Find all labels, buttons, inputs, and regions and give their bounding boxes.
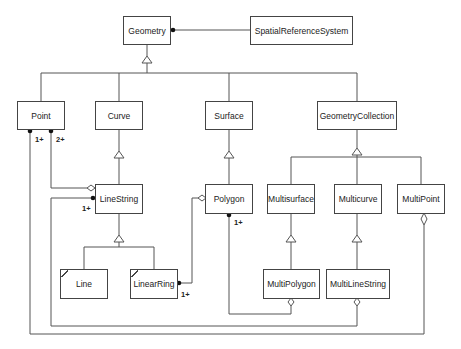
class-linear-ring[interactable]: LinearRing — [130, 269, 178, 299]
class-multilinestring[interactable]: MultiLineString — [326, 269, 390, 299]
multiplicity-linestring-multilinestring: 1+ — [82, 204, 91, 213]
class-point[interactable]: Point — [17, 101, 65, 130]
class-label: GeometryCollection — [320, 111, 395, 121]
class-label: MultiLineString — [330, 279, 386, 289]
class-linestring[interactable]: LineString — [95, 184, 143, 214]
multiplicity-linearring-polygon: 1+ — [181, 290, 190, 299]
multiplicity-point-linestring: 2+ — [56, 135, 65, 144]
class-multipoint[interactable]: MultiPoint — [397, 184, 445, 214]
class-label: Line — [76, 279, 92, 289]
class-label: MultiPolygon — [267, 279, 316, 289]
class-surface[interactable]: Surface — [205, 101, 253, 130]
class-line[interactable]: Line — [60, 269, 108, 299]
class-label: Geometry — [128, 26, 165, 36]
multiplicity-point-multipoint: 1+ — [35, 135, 44, 144]
class-multicurve[interactable]: Multicurve — [334, 184, 382, 214]
class-geometry-collection[interactable]: GeometryCollection — [317, 101, 397, 130]
class-label: Curve — [108, 111, 131, 121]
class-label: LinearRing — [133, 279, 174, 289]
class-multisurface[interactable]: Multisurface — [267, 184, 315, 214]
class-spatial-reference-system[interactable]: SpatialReferenceSystem — [250, 16, 353, 45]
class-label: Multicurve — [339, 194, 378, 204]
class-geometry[interactable]: Geometry — [123, 16, 171, 45]
class-curve[interactable]: Curve — [95, 101, 143, 130]
class-label: SpatialReferenceSystem — [255, 26, 349, 36]
class-label: Point — [31, 111, 50, 121]
class-label: Multisurface — [268, 194, 314, 204]
class-label: Polygon — [214, 194, 245, 204]
class-label: LineString — [100, 194, 138, 204]
class-multipolygon[interactable]: MultiPolygon — [263, 269, 320, 299]
multiplicity-polygon-multipolygon: 1+ — [234, 218, 243, 227]
class-label: Surface — [214, 111, 243, 121]
class-polygon[interactable]: Polygon — [205, 184, 253, 214]
class-label: MultiPoint — [402, 194, 439, 204]
